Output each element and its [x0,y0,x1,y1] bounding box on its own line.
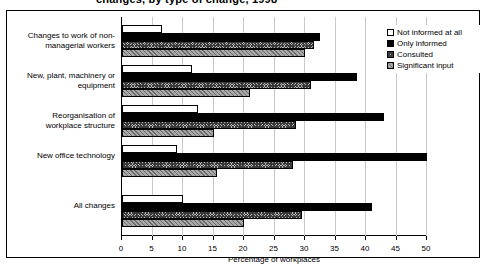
legend-item: Only informed [387,38,483,49]
x-axis-tick-label: 50 [422,244,431,253]
x-axis-tick [182,236,183,240]
legend-swatch-consulted [387,51,394,58]
legend-label: Only informed [397,38,447,49]
bar [122,153,427,161]
x-axis-tick [396,236,397,240]
bar [122,161,293,169]
x-axis-tick [152,236,153,240]
bar [122,145,177,153]
x-axis-tick [426,236,427,240]
x-axis-tick [304,236,305,240]
x-axis-tick-label: 35 [330,244,339,253]
chart-title-strip: changes, by type of change, 1998 [0,0,488,9]
bar [122,195,183,203]
legend-label: Significant input [397,60,453,71]
bar [122,211,302,219]
chart-legend: Not informed at all Only informed Consul… [385,25,483,73]
x-axis-tick-label: 15 [208,244,217,253]
x-axis-tick [243,236,244,240]
x-axis-tick [335,236,336,240]
bar [122,73,357,81]
category-label: All changes [5,201,121,211]
chart-screenshot: changes, by type of change, 1998 0510152… [0,0,488,279]
legend-swatch-only-informed [387,40,394,47]
bar [122,41,314,49]
plot-area: 05101520253035404550Changes to work of n… [121,17,427,236]
bar [122,25,162,33]
legend-item: Consulted [387,49,483,60]
x-axis-label: Percentage of workplaces [121,255,427,264]
bar [122,89,250,97]
x-axis-tick [365,236,366,240]
x-axis-tick [213,236,214,240]
x-axis-tick-label: 20 [239,244,248,253]
legend-swatch-not-informed-at-all [387,29,394,36]
x-axis-tick [121,236,122,240]
bar [122,219,244,227]
category-label: Changes to work of non- managerial worke… [5,31,121,51]
legend-swatch-significant-input [387,62,394,69]
bar [122,169,217,177]
bar [122,129,214,137]
legend-label: Consulted [397,49,433,60]
x-axis-tick-label: 25 [269,244,278,253]
bar [122,105,198,113]
x-axis-tick-label: 45 [391,244,400,253]
bar [122,65,192,73]
x-axis-tick-label: 30 [300,244,309,253]
legend-item: Significant input [387,60,483,71]
bar [122,81,311,89]
x-axis-tick-label: 10 [178,244,187,253]
chart-frame: 05101520253035404550Changes to work of n… [6,10,480,258]
x-axis-tick-label: 0 [119,244,123,253]
bar [122,113,384,121]
legend-label: Not informed at all [397,27,462,38]
category-label: New office technology [5,151,121,161]
bar [122,121,296,129]
bar [122,203,372,211]
legend-item: Not informed at all [387,27,483,38]
category-label: New, plant, machinery or equipment [5,71,121,91]
page-title: changes, by type of change, 1998 [96,0,277,5]
bar [122,33,320,41]
bar [122,49,305,57]
x-axis-tick-label: 40 [361,244,370,253]
x-axis-tick-label: 5 [149,244,153,253]
x-axis-tick [274,236,275,240]
category-label: Reorganisation of workplace structure [5,111,121,131]
